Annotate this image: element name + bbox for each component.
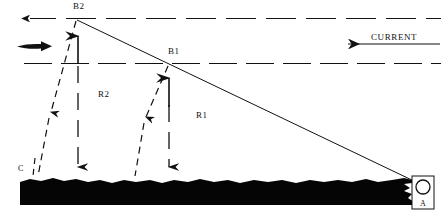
diagram-canvas: B2 B1 R2 R1 C A CURRENT [0,0,441,220]
label-current: CURRENT [371,32,417,42]
dash-mark-near-c [33,158,35,176]
label-b2: B2 [73,1,85,11]
label-c: C [18,164,24,173]
label-b1: B1 [168,46,180,56]
seabed [20,178,414,205]
label-r2: R2 [98,89,110,99]
flow-arrow-right [17,41,52,51]
label-a: A [420,199,426,208]
label-r1: R1 [196,110,208,120]
slant-arrow-b1-down-left [135,66,168,176]
source-marker-a [416,180,430,194]
